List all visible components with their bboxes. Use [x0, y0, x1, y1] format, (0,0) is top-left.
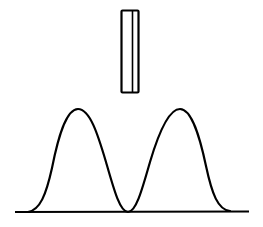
slit-bar [122, 11, 139, 93]
diagram-canvas [0, 0, 263, 227]
diagram-svg [0, 0, 263, 227]
double-peak-curve [28, 109, 230, 212]
baseline [15, 212, 249, 213]
